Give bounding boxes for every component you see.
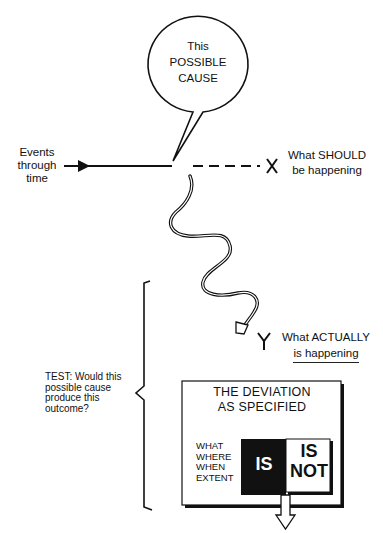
- deviation-title-line-1: THE DEVIATION: [182, 385, 342, 400]
- bubble-line-3: CAUSE: [148, 70, 248, 86]
- bubble-line-2: POSSIBLE: [148, 54, 248, 70]
- actually-line-1: What ACTUALLY: [282, 329, 370, 345]
- bubble-text: This POSSIBLE CAUSE: [148, 38, 248, 86]
- test-line-1: TEST: Would this: [45, 372, 135, 383]
- test-line-3: produce this: [45, 393, 135, 404]
- events-line-2: through: [12, 159, 62, 172]
- should-line-2: be happening: [288, 163, 366, 178]
- is-label: IS: [242, 455, 286, 475]
- y-marker-icon: [258, 333, 270, 350]
- actually-line-2: is happening: [293, 345, 358, 363]
- timeline-solid-line: [64, 160, 172, 172]
- x-marker-icon: [267, 159, 277, 173]
- deviation-title: THE DEVIATION AS SPECIFIED: [182, 385, 342, 415]
- dimension-what: WHAT: [196, 441, 233, 452]
- events-line-1: Events: [12, 146, 62, 159]
- deviation-title-line-2: AS SPECIFIED: [182, 400, 342, 415]
- events-line-3: time: [12, 172, 62, 185]
- dimension-extent: EXTENT: [196, 473, 233, 484]
- arrow-right-icon: [78, 160, 90, 172]
- test-line-4: outcome?: [45, 404, 135, 415]
- curly-brace: [136, 281, 152, 510]
- isnot-line-1: IS: [287, 441, 331, 461]
- actually-label: What ACTUALLY is happening: [282, 329, 370, 363]
- bubble-line-1: This: [148, 38, 248, 54]
- should-line-1: What SHOULD: [288, 148, 366, 163]
- test-question: TEST: Would this possible cause produce …: [45, 372, 135, 414]
- isnot-line-2: NOT: [287, 461, 331, 481]
- wavy-deviation-arrow: [171, 176, 257, 334]
- deviation-dimensions: WHAT WHERE WHEN EXTENT: [196, 441, 233, 483]
- should-label: What SHOULD be happening: [288, 148, 366, 178]
- events-label: Events through time: [12, 146, 62, 185]
- isnot-label: IS NOT: [287, 441, 331, 481]
